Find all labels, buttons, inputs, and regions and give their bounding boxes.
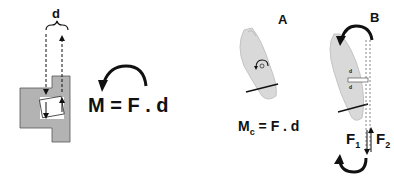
rotation-arrow-bottom-icon bbox=[334, 154, 366, 172]
distance-1-label: d bbox=[349, 68, 352, 74]
diagram-canvas bbox=[0, 0, 394, 176]
moment-arrow-icon bbox=[98, 66, 146, 92]
rotation-arrow-top-icon bbox=[336, 26, 372, 46]
force-subscript: 1 bbox=[355, 140, 360, 150]
distance-2-label: d bbox=[349, 84, 352, 90]
force-2-label: F2 bbox=[376, 130, 390, 150]
force-1-label: F1 bbox=[346, 130, 360, 150]
equation-symbol: M bbox=[238, 118, 250, 134]
force-symbol: F bbox=[376, 130, 385, 147]
force-subscript: 2 bbox=[385, 140, 390, 150]
tooth-a-illustration bbox=[240, 28, 278, 99]
panel-a-label: A bbox=[278, 12, 287, 27]
panel-a-equation: Mc = F . d bbox=[238, 118, 299, 137]
panel-b-label: B bbox=[370, 10, 379, 25]
moment-equation: M = F . d bbox=[88, 94, 169, 117]
equation-rest: = F . d bbox=[255, 118, 300, 134]
bracket-slot-diagram bbox=[20, 21, 70, 142]
distance-label: d bbox=[52, 6, 60, 21]
force-symbol: F bbox=[346, 130, 355, 147]
